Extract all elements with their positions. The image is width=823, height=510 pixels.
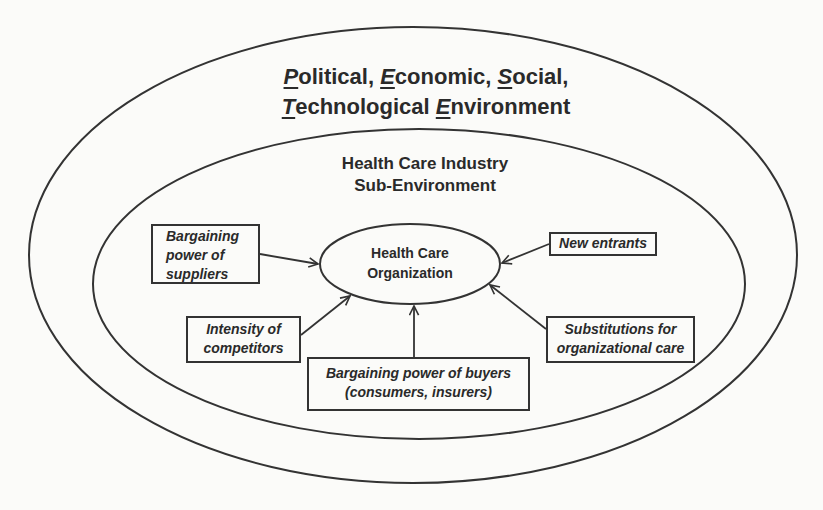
arrow-new-entrants-to-organization [502,244,549,263]
initial-letter: T [282,94,295,119]
force-box-text: competitors [188,339,299,358]
organization-label: Health Care Organization [340,243,480,283]
force-box-substitutions: Substitutions for organizational care [546,316,695,363]
initial-letter: P [284,64,299,89]
title-word-fragment: ocial, [512,64,568,89]
force-box-text: New entrants [551,234,655,253]
arrow-substitutions-to-organization [490,285,546,329]
force-box-text: suppliers [166,265,258,284]
initial-letter: S [498,64,513,89]
force-box-text: Substitutions for [548,320,693,339]
force-box-text: Bargaining [166,227,258,246]
organization-label-line1: Health Care [340,243,480,263]
force-box-text: Intensity of [188,320,299,339]
initial-letter: E [436,94,451,119]
force-box-supplier-power: Bargaining power of suppliers [151,224,260,284]
title-word-fragment: nvironment [450,94,570,119]
force-box-text: power of [166,246,258,265]
force-box-competitor-intensity: Intensity of competitors [186,316,301,363]
industry-title-line1: Health Care Industry [320,153,530,175]
force-box-buyer-power: Bargaining power of buyers (consumers, i… [307,357,530,411]
force-box-text: Bargaining power of buyers [309,364,528,383]
title-word-fragment: olitical, [298,64,380,89]
force-box-text: (consumers, insurers) [309,383,528,402]
organization-label-line2: Organization [340,263,480,283]
initial-letter: E [380,64,395,89]
force-box-text: organizational care [548,339,693,358]
industry-title-line2: Sub-Environment [320,175,530,197]
arrow-competitors-to-organization [301,296,350,335]
title-word-fragment: conomic, [395,64,498,89]
outer-environment-title: Political, Economic, Social, Technologic… [271,62,581,122]
outer-environment-title-line1: Political, Economic, Social, [271,62,581,92]
title-word-fragment: echnological [295,94,436,119]
industry-subenvironment-title: Health Care Industry Sub-Environment [320,153,530,197]
arrow-suppliers-to-organization [260,254,318,264]
force-box-new-entrants: New entrants [549,232,657,256]
outer-environment-title-line2: Technological Environment [271,92,581,122]
